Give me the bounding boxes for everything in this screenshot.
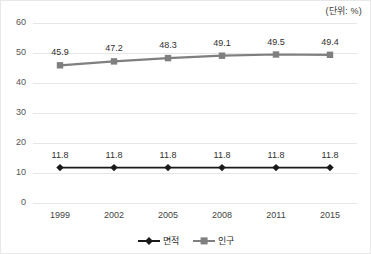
square-marker [327, 52, 333, 58]
chart-container: (단위: %) 0102030405060 199920022005200820… [0, 0, 371, 254]
y-axis-tick-label: 0 [21, 197, 26, 207]
x-axis-tick-label: 2011 [266, 210, 285, 220]
data-point-label: 11.8 [268, 150, 285, 160]
legend-entry-면적[interactable]: 면적 [137, 234, 179, 247]
data-point-label: 11.8 [214, 150, 231, 160]
legend-label: 인구 [218, 234, 234, 247]
data-point-label: 45.9 [51, 47, 69, 57]
x-axis-tick-label: 2008 [212, 210, 232, 220]
data-point-label: 48.3 [159, 40, 177, 50]
series-line-인구 [60, 55, 330, 66]
x-axis-tick-label: 2015 [320, 210, 340, 220]
data-point-label: 11.8 [106, 150, 123, 160]
x-axis-tick-label: 2005 [158, 210, 178, 220]
diamond-marker [272, 164, 279, 171]
square-marker [273, 51, 279, 57]
x-axis-tick-label: 2002 [104, 210, 124, 220]
square-marker [192, 236, 216, 246]
diamond-marker [326, 164, 333, 171]
y-axis-tick-label: 10 [16, 167, 26, 177]
data-point-label: 49.4 [321, 37, 339, 47]
legend-label: 면적 [163, 234, 179, 247]
diamond-marker [164, 164, 171, 171]
chart-legend: 면적인구 [1, 234, 370, 247]
diamond-marker [110, 164, 117, 171]
x-axis-tick-labels: 199920022005200820112015 [50, 210, 340, 220]
y-axis-tick-label: 40 [16, 77, 26, 87]
data-point-label: 11.8 [322, 150, 339, 160]
diamond-marker [137, 236, 161, 246]
square-marker [57, 62, 63, 68]
legend-entry-인구[interactable]: 인구 [192, 234, 234, 247]
diamond-marker-glyph [145, 237, 153, 245]
y-axis-tick-label: 50 [16, 47, 26, 57]
data-point-label: 11.8 [52, 150, 69, 160]
data-point-label: 49.5 [267, 37, 285, 47]
square-marker [111, 58, 117, 64]
square-marker [219, 53, 225, 59]
diamond-marker [56, 164, 63, 171]
data-point-label: 47.2 [105, 43, 123, 53]
square-marker [165, 55, 171, 61]
y-axis-tick-label: 30 [16, 107, 26, 117]
y-axis-tick-labels: 0102030405060 [16, 17, 26, 207]
gridlines-group [33, 23, 357, 203]
data-point-label: 49.1 [213, 38, 231, 48]
diamond-marker [218, 164, 225, 171]
data-point-label: 11.8 [160, 150, 177, 160]
y-axis-tick-label: 20 [16, 137, 26, 147]
y-axis-tick-label: 60 [16, 17, 26, 27]
square-marker-glyph [201, 237, 208, 244]
data-series-group [56, 51, 333, 171]
x-axis-tick-label: 1999 [50, 210, 70, 220]
line-chart-plot: 0102030405060 199920022005200820112015 1… [1, 1, 371, 254]
